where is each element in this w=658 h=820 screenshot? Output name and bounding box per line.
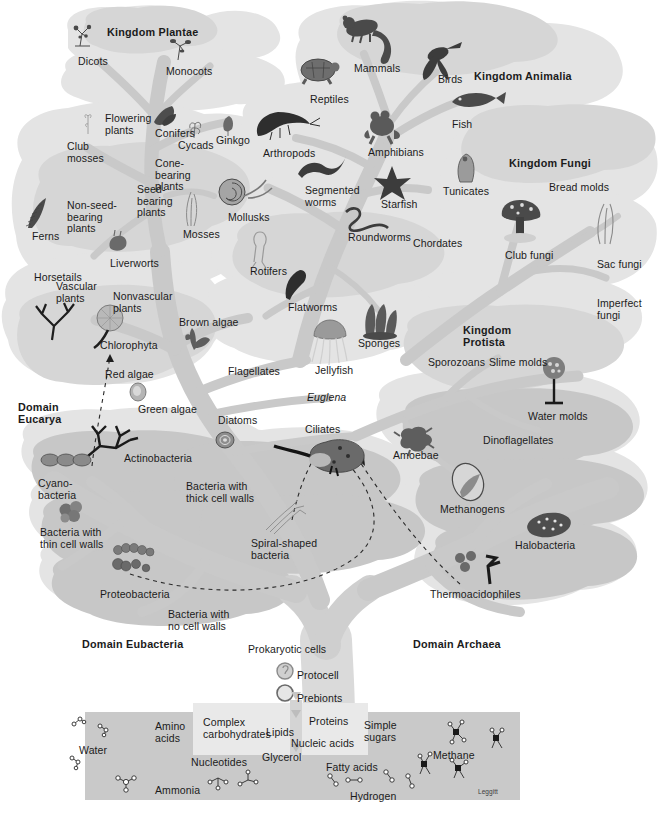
domain-label-eucarya: Domain Eucarya [18,402,62,425]
starfish-icon [374,166,411,200]
taxon-label-arthropods: Arthropods [263,148,315,160]
taxon-label-starfish: Starfish [381,199,417,211]
diatom-icon [216,432,234,448]
taxon-label-cycads: Cycads [178,140,214,152]
molecule-label-amino-acids: Amino acids [155,721,185,744]
cyanobacteria-chain-icon [41,454,91,466]
rotifer-icon [252,232,266,268]
taxon-label-mosses: Mosses [183,229,220,241]
brown-algae-icon [185,328,210,350]
taxon-label-cyanobacteria: Cyano- bacteria [38,478,76,501]
conifer-branch-icon [154,106,176,126]
taxon-label-liverworts: Liverworts [110,258,159,270]
taxon-label-rotifers: Rotifers [250,266,287,278]
taxon-label-methanogens: Methanogens [440,504,505,516]
proteobacteria-cluster-icon [113,544,155,572]
taxon-label-dicots: Dicots [78,56,108,68]
jellyfish-icon [312,320,347,365]
taxon-label-sporozoans: Sporozoans [428,357,485,369]
trunk-label-prebionts: Prebionts [297,693,342,705]
taxon-label-brown-algae: Brown algae [179,317,239,329]
tree-of-life-figure: Domain EucaryaDomain EubacteriaDomain Ar… [0,0,658,820]
spirochete-icon [266,500,306,534]
molecule-label-ammonia: Ammonia [155,785,200,797]
taxon-label-bacteria-thin: Bacteria with thin cell walls [40,527,103,550]
chipmunk-icon [343,16,392,64]
trunk-label-protocell: Protocell [297,670,339,682]
red-algae-icon [36,303,74,340]
molecule-label-fatty-acids: Fatty acids [326,762,378,774]
molecule-label-simple-sugars: Simple sugars [364,720,397,743]
taxon-label-spiral-bacteria: Spiral-shaped bacteria [251,538,317,561]
tunicate-icon [458,154,474,182]
molecule-label-lipids: Lipids [266,727,294,739]
taxon-label-tunicates: Tunicates [443,186,489,198]
taxon-label-dinoflagellates: Dinoflagellates [483,435,553,447]
taxon-label-chordates: Chordates [413,238,462,250]
taxon-label-flatworms: Flatworms [288,302,337,314]
taxon-label-sponges: Sponges [358,338,400,350]
taxon-label-club-fungi: Club fungi [505,250,553,262]
dashed-spiral-to-ciliate [292,452,318,520]
taxon-label-red-algae: Red algae [105,369,154,381]
fern-frond-icon [26,198,46,228]
prebiont-circle-icon [277,685,293,701]
taxon-label-bacteria-nocell: Bacteria with no cell walls [168,609,229,632]
green-algae-cell-icon [130,383,146,401]
domain-label-eubacteria: Domain Eubacteria [82,639,183,651]
taxon-label-imperfect-fungi: Imperfect fungi [597,298,642,321]
kingdom-label-fungi: Kingdom Fungi [509,158,591,170]
methanogen-cell-icon [447,459,489,505]
molecule-label-nucleotides: Nucleotides [191,757,247,769]
shrimp-icon [257,112,320,140]
taxon-label-flowering-plants: Flowering plants [105,113,151,136]
molecule-label-hydrogen: Hydrogen [350,791,396,803]
taxon-label-fish: Fish [452,119,472,131]
thermoacidophile-icon [455,551,500,584]
taxon-label-ginkgo: Ginkgo [216,135,250,147]
taxon-label-thermoacidophiles: Thermoacidophiles [430,589,521,601]
kingdom-label-plantae: Kingdom Plantae [107,27,198,39]
taxon-label-bacteria-thick: Bacteria with thick cell walls [186,481,254,504]
domain-label-archaea: Domain Archaea [413,639,501,651]
protocell-icon [277,663,293,679]
nematode-icon [346,208,388,230]
frog-icon [364,111,400,145]
taxon-label-sac-fungi: Sac fungi [597,259,642,271]
kingdom-label-animalia: Kingdom Animalia [474,71,572,83]
snail-icon [219,179,272,205]
taxon-label-mammals: Mammals [354,63,400,75]
taxon-label-ciliates: Ciliates [305,424,340,436]
taxon-label-reptiles: Reptiles [310,94,349,106]
taxon-label-jellyfish: Jellyfish [315,365,353,377]
taxon-label-water-molds: Water molds [528,411,588,423]
taxon-label-euglena: Euglena [307,392,346,404]
taxon-label-ferns: Ferns [32,231,59,243]
branch-structure [54,54,618,720]
taxon-label-diatoms: Diatoms [218,415,257,427]
taxon-label-green-algae: Green algae [138,404,197,416]
taxon-label-bread-molds: Bread molds [549,182,609,194]
taxon-label-club-mosses: Club mosses [67,141,104,164]
molecule-label-glycerol: Glycerol [262,752,301,764]
trunk-label-prokaryotic-cells: Prokaryotic cells [248,644,326,656]
sponge-icon [363,304,397,340]
taxon-label-conifers: Conifers [155,128,195,140]
taxon-label-amoebae: Amoebae [393,450,439,462]
dashed-thermoacidophile-to-ciliate [360,462,460,584]
fish-icon [452,92,506,107]
turtle-icon [301,59,340,84]
molecule-label-water: Water [79,745,107,757]
monocot-plant-icon [170,39,191,60]
dicot-plant-icon [74,25,92,46]
taxon-label-chlorophyta: Chlorophyta [100,340,158,352]
coccus-cluster-icon [60,501,83,523]
club-moss-icon [85,115,91,134]
flatworm-icon [286,270,306,300]
taxon-label-non-seed-bearing: Non-seed- bearing plants [67,200,117,235]
artist-credit: Leggitt [478,786,498,798]
taxon-label-vascular-plants: Vascular plants [56,281,97,304]
taxon-label-monocots: Monocots [166,66,212,78]
taxon-label-proteobacteria: Proteobacteria [100,589,170,601]
molecule-label-complex-carbohydrates: Complex carbohydrates [203,717,271,740]
